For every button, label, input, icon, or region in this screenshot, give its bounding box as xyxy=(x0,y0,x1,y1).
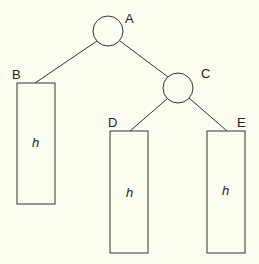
edge-a-b xyxy=(35,41,97,83)
label-e: E xyxy=(237,115,246,130)
node-c xyxy=(163,73,193,103)
height-label-d: h xyxy=(126,185,133,200)
label-c: C xyxy=(201,66,210,81)
edge-c-e xyxy=(189,98,227,131)
label-d: D xyxy=(108,115,117,130)
edge-c-d xyxy=(130,98,168,131)
label-a: A xyxy=(125,11,134,26)
node-a xyxy=(93,16,123,46)
tree-diagram: A C B D E h h h xyxy=(0,0,259,264)
edge-a-c xyxy=(120,41,168,77)
label-b: B xyxy=(12,67,21,82)
height-label-b: h xyxy=(32,135,39,150)
height-label-e: h xyxy=(222,183,229,198)
